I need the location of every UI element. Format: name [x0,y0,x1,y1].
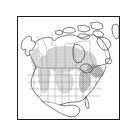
arctic-island-2 [78,25,90,32]
range-map-figure: North America distribution map [0,0,136,135]
arctic-island-1 [63,27,76,33]
map-frame [17,16,120,120]
arctic-island-4 [56,30,63,35]
north-america-map [18,17,119,119]
arctic-island-3 [91,22,103,30]
